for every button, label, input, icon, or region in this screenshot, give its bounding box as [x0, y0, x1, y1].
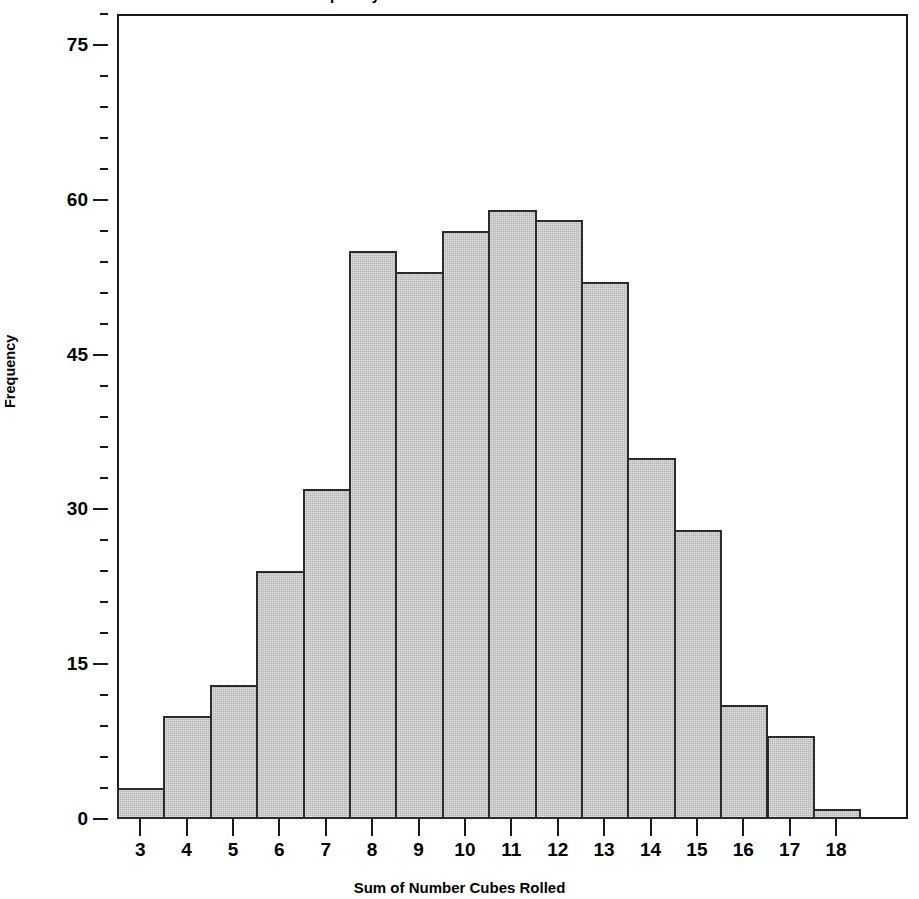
bars-layer [117, 14, 908, 819]
x-axis-tick-label: 14 [640, 840, 661, 859]
histogram-bar [720, 705, 768, 819]
x-axis-tick-label: 18 [826, 840, 847, 859]
y-axis-tick-label: 45 [67, 345, 88, 364]
x-axis-tick [186, 819, 188, 836]
histogram-bar [303, 489, 351, 819]
histogram-bar [442, 231, 490, 819]
x-axis-tick-label: 13 [594, 840, 615, 859]
y-axis-minor-tick [100, 756, 108, 758]
y-axis-tick-label: 0 [77, 809, 88, 828]
x-axis-tick [371, 819, 373, 836]
y-axis: 01530456075 [0, 0, 119, 899]
x-axis-tick [789, 819, 791, 836]
x-axis-tick-label: 6 [274, 840, 285, 859]
histogram-bar [488, 210, 536, 819]
y-axis-minor-tick [100, 632, 108, 634]
histogram-bar [767, 736, 815, 819]
x-axis-tick [510, 819, 512, 836]
histogram-figure: Frequency of Sums of Two Number Cubes Fr… [0, 0, 919, 899]
x-axis-tick [603, 819, 605, 836]
y-axis-minor-tick [100, 323, 108, 325]
y-axis-minor-tick [100, 168, 108, 170]
y-axis-major-tick [93, 44, 108, 46]
y-axis-minor-tick [100, 261, 108, 263]
histogram-bar [813, 809, 861, 819]
x-axis-tick [418, 819, 420, 836]
x-axis-tick-label: 5 [228, 840, 239, 859]
x-axis-tick-label: 4 [181, 840, 192, 859]
histogram-bar [349, 251, 397, 819]
x-axis-title: Sum of Number Cubes Rolled [0, 879, 919, 896]
y-axis-minor-tick [100, 601, 108, 603]
x-axis-tick [232, 819, 234, 836]
y-axis-major-tick [93, 818, 108, 820]
y-axis-minor-tick [100, 725, 108, 727]
histogram-bar [210, 685, 258, 819]
histogram-bar [627, 458, 675, 819]
histogram-bar [163, 716, 211, 819]
x-axis-tick-label: 12 [547, 840, 568, 859]
y-axis-minor-tick [100, 694, 108, 696]
histogram-bar [535, 220, 583, 819]
histogram-bar [674, 530, 722, 819]
x-axis-tick-label: 8 [367, 840, 378, 859]
y-axis-minor-tick [100, 570, 108, 572]
y-axis-major-tick [93, 354, 108, 356]
y-axis-minor-tick [100, 137, 108, 139]
x-axis-tick [742, 819, 744, 836]
y-axis-minor-tick [100, 13, 108, 15]
x-axis-tick-label: 7 [320, 840, 331, 859]
y-axis-major-tick [93, 663, 108, 665]
histogram-bar [581, 282, 629, 819]
chart-title: Frequency of Sums of Two Number Cubes [0, 0, 919, 4]
x-axis-tick-label: 3 [135, 840, 146, 859]
x-axis-tick [139, 819, 141, 836]
y-axis-minor-tick [100, 292, 108, 294]
x-axis-tick-label: 17 [779, 840, 800, 859]
y-axis-minor-tick [100, 106, 108, 108]
x-axis-tick [278, 819, 280, 836]
x-axis-tick [835, 819, 837, 836]
x-axis-tick-label: 10 [454, 840, 475, 859]
x-axis-tick [650, 819, 652, 836]
x-axis-tick [557, 819, 559, 836]
x-axis-tick-label: 15 [686, 840, 707, 859]
histogram-bar [395, 272, 443, 819]
y-axis-minor-tick [100, 446, 108, 448]
x-axis-tick [325, 819, 327, 836]
y-axis-tick-label: 75 [67, 35, 88, 54]
x-axis-tick-label: 9 [413, 840, 424, 859]
x-axis-tick [696, 819, 698, 836]
y-axis-major-tick [93, 508, 108, 510]
y-axis-minor-tick [100, 477, 108, 479]
x-axis-tick-label: 11 [501, 840, 521, 859]
y-axis-minor-tick [100, 75, 108, 77]
y-axis-minor-tick [100, 230, 108, 232]
x-axis-tick [464, 819, 466, 836]
histogram-bar [117, 788, 165, 819]
y-axis-major-tick [93, 199, 108, 201]
y-axis-minor-tick [100, 385, 108, 387]
histogram-bar [256, 571, 304, 819]
y-axis-minor-tick [100, 416, 108, 418]
y-axis-minor-tick [100, 787, 108, 789]
y-axis-tick-label: 30 [67, 499, 88, 518]
y-axis-minor-tick [100, 539, 108, 541]
x-axis-tick-label: 16 [733, 840, 754, 859]
y-axis-tick-label: 60 [67, 190, 88, 209]
y-axis-tick-label: 15 [67, 654, 88, 673]
